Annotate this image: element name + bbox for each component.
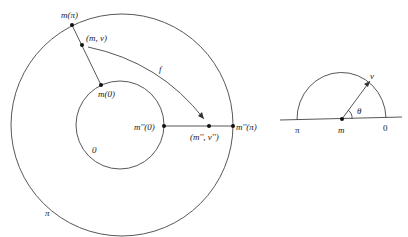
right-figure bbox=[280, 72, 402, 120]
label-m-v: (m, v) bbox=[86, 33, 107, 43]
label-m2-pi: m''(π) bbox=[236, 122, 257, 132]
label-m-0: m(0) bbox=[98, 89, 115, 99]
point-m2-0 bbox=[162, 124, 166, 128]
label-m2-v2: (m'', v'') bbox=[190, 132, 219, 142]
label-m-pi: m(π) bbox=[61, 10, 78, 20]
angle-arc bbox=[348, 110, 352, 119]
vector-v bbox=[342, 81, 370, 119]
label-pi-right: π bbox=[295, 125, 300, 135]
label-v: v bbox=[370, 71, 374, 81]
point-m bbox=[340, 117, 344, 121]
label-inner-circle: 0 bbox=[92, 145, 97, 155]
label-theta: θ bbox=[357, 106, 362, 116]
point-m2-v2 bbox=[207, 124, 211, 128]
point-m-v bbox=[80, 43, 84, 47]
outer-circle bbox=[11, 14, 233, 236]
label-zero-right: 0 bbox=[383, 123, 388, 133]
left-figure bbox=[11, 14, 233, 236]
label-outer-circle: π bbox=[45, 208, 50, 218]
point-m-pi bbox=[70, 23, 74, 27]
label-m-right: m bbox=[338, 125, 345, 135]
diagram-canvas: m(π) (m, v) m(0) m''(0) (m'', v'') m''(π… bbox=[0, 0, 408, 237]
label-map-f: f bbox=[159, 64, 163, 74]
point-m2-pi bbox=[231, 124, 235, 128]
map-f-arrow bbox=[88, 47, 204, 119]
vector-arrowhead-icon bbox=[364, 81, 370, 87]
label-m2-0: m''(0) bbox=[134, 122, 155, 132]
point-m-0 bbox=[99, 83, 103, 87]
